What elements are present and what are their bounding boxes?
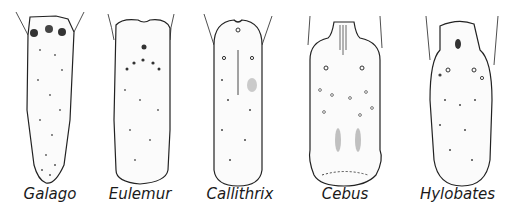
hylobates-tongue-drawing [410,0,505,190]
callithrix-tongue-drawing [200,0,280,190]
eulemur-tongue-drawing [100,0,180,190]
specimen-callithrix: Callithrix [200,0,280,220]
specimen-cebus: Cebus [300,0,390,220]
specimen-hylobates: Hylobates [410,0,505,220]
specimen-label-hylobates: Hylobates [410,185,505,203]
cebus-tongue-drawing [300,0,390,190]
specimen-label-cebus: Cebus [300,185,390,203]
specimen-label-galago: Galago [10,185,90,203]
specimen-galago: Galago [10,0,90,220]
specimen-eulemur: Eulemur [100,0,180,220]
specimen-label-callithrix: Callithrix [200,185,280,203]
specimen-label-eulemur: Eulemur [100,185,180,203]
galago-tongue-drawing [10,0,90,190]
